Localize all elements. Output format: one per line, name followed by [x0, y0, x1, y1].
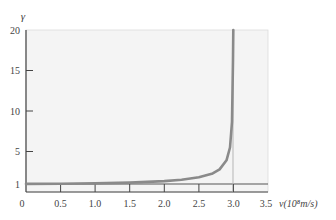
x-tick-label: 3.5	[260, 198, 273, 209]
x-tick-label: 2.5	[193, 198, 206, 209]
y-tick-label: 10	[10, 106, 20, 117]
x-tick-label: 1.5	[123, 198, 136, 209]
y-tick-label: 15	[10, 65, 20, 76]
x-tick-label: 2.0	[158, 198, 171, 209]
gamma-vs-velocity-chart: 20 15 10 5 1 γ 0 0.5 1.0 1.5 2.0 2.5 3.0…	[0, 0, 336, 220]
y-tick-label: 5	[15, 146, 20, 157]
x-tick-label: 3.0	[227, 198, 240, 209]
y-tick-label: 1	[15, 179, 20, 190]
y-axis-title: γ	[21, 10, 26, 22]
x-axis-title: v(10⁸m/s)	[279, 198, 318, 210]
x-tick-label: 0.5	[54, 198, 67, 209]
x-tick-label: 1.0	[89, 198, 102, 209]
y-tick-label: 20	[10, 25, 20, 36]
x-tick-label: 0	[20, 198, 25, 209]
